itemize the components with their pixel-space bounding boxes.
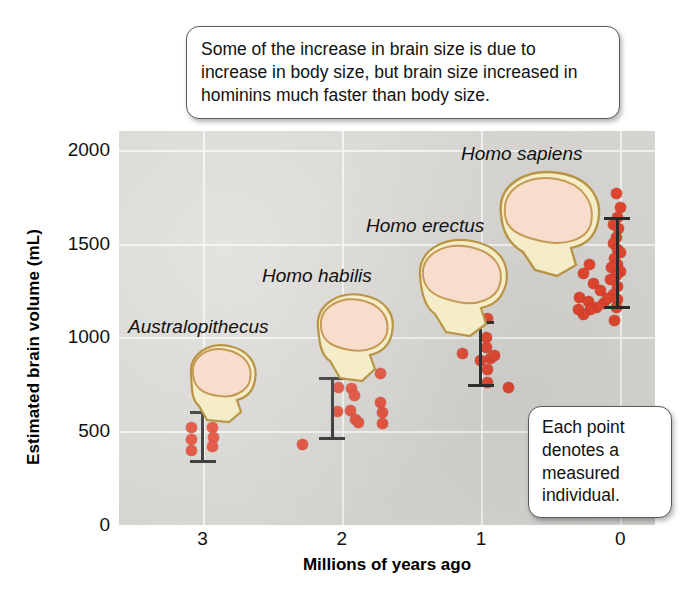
y-tick-0: 0 — [48, 514, 110, 536]
data-point — [503, 382, 514, 393]
species-label-australopithecus: Australopithecus — [128, 316, 268, 338]
x-tick-0: 0 — [600, 528, 640, 550]
data-point — [353, 417, 364, 428]
y-tick-1000: 1000 — [48, 326, 110, 348]
data-point — [457, 348, 468, 359]
species-label-homo-erectus: Homo erectus — [366, 215, 484, 237]
data-point — [377, 418, 388, 429]
y-tick-500: 500 — [48, 420, 110, 442]
data-point — [375, 397, 386, 408]
x-tick-1: 1 — [461, 528, 501, 550]
species-label-homo-habilis: Homo habilis — [262, 265, 372, 287]
callout-each-point: Each point denotes a measured individual… — [528, 406, 672, 518]
y-tick-1500: 1500 — [48, 233, 110, 255]
x-tick-2: 2 — [322, 528, 362, 550]
data-point — [573, 304, 584, 315]
data-point — [609, 315, 620, 326]
skull-australopithecus — [163, 334, 281, 430]
species-label-homo-sapiens: Homo sapiens — [461, 143, 582, 165]
data-point — [297, 439, 308, 450]
y-tick-2000: 2000 — [48, 139, 110, 161]
y-axis-title: Estimated brain volume (mL) — [24, 229, 44, 465]
callout-brain-body-size: Some of the increase in brain size is du… — [186, 26, 620, 119]
x-tick-3: 3 — [183, 528, 223, 550]
data-point — [349, 390, 360, 401]
x-axis-title: Millions of years ago — [119, 555, 655, 575]
skull-homo-sapiens — [483, 166, 615, 280]
data-point — [377, 407, 388, 418]
